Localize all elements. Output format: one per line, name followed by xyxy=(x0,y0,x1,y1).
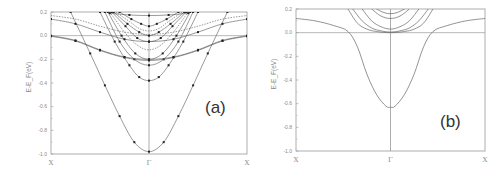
band-marker xyxy=(128,64,130,66)
band-marker xyxy=(119,11,121,13)
band-marker xyxy=(197,11,199,13)
band-marker xyxy=(156,23,158,25)
band-marker xyxy=(99,31,101,33)
band-marker xyxy=(197,49,199,51)
x-tick-label: X xyxy=(483,156,488,164)
band-marker xyxy=(148,25,150,27)
band-marker xyxy=(133,141,135,143)
band-structure-figure: 0.20.0-0.2-0.4-0.6-0.8-1.0XΓXE-E_F(eV) 0… xyxy=(0,0,503,178)
band-marker xyxy=(138,76,140,78)
y-tick-label: -1.0 xyxy=(283,148,292,154)
band-marker xyxy=(75,23,77,25)
band-marker xyxy=(168,14,170,16)
band-marker xyxy=(119,115,121,117)
band-marker xyxy=(124,57,126,59)
band-marker xyxy=(192,84,194,86)
band-marker xyxy=(89,52,91,54)
band-marker xyxy=(99,11,101,13)
band-marker xyxy=(189,11,191,13)
band-marker xyxy=(148,60,150,62)
y-tick-label: 0.2 xyxy=(285,6,292,12)
band-marker xyxy=(104,11,106,13)
band-marker xyxy=(130,18,132,20)
band-marker xyxy=(124,25,126,27)
band-marker xyxy=(158,76,160,78)
band-marker xyxy=(177,41,179,43)
band-marker xyxy=(173,57,175,59)
band-marker xyxy=(126,23,128,25)
band-marker xyxy=(166,18,168,20)
band-marker xyxy=(177,115,179,117)
y-tick-label: -0.6 xyxy=(283,100,292,106)
band-marker xyxy=(175,35,177,37)
band-marker xyxy=(111,11,113,13)
y-tick-label: -0.8 xyxy=(283,124,292,130)
band-marker xyxy=(160,37,162,39)
band-marker xyxy=(185,11,187,13)
band-marker xyxy=(138,31,140,33)
y-tick-label: -0.2 xyxy=(38,56,47,62)
x-tick-label: Γ xyxy=(388,156,393,164)
band-marker xyxy=(75,40,77,42)
panel-b-label: (b) xyxy=(440,112,461,131)
y-tick-label: -0.8 xyxy=(38,127,47,133)
band-marker xyxy=(222,23,224,25)
x-tick-label: X xyxy=(49,159,54,167)
y-axis-title: E-E_F(eV) xyxy=(270,59,278,90)
band-marker xyxy=(136,37,138,39)
band-marker xyxy=(168,64,170,66)
y-tick-label: -0.6 xyxy=(38,103,47,109)
x-tick-label: X xyxy=(245,159,250,167)
x-tick-label: X xyxy=(294,156,299,164)
y-tick-label: 0.0 xyxy=(285,29,292,35)
band-marker xyxy=(114,41,116,43)
band-marker xyxy=(148,80,150,82)
panel-b-band-structure: 0.20.0-0.2-0.4-0.6-0.8-1.0XΓXE-E_F(eV) xyxy=(270,6,488,164)
band-marker xyxy=(99,49,101,51)
band-marker xyxy=(187,12,189,14)
panel-a-band-structure: 0.20.0-0.2-0.4-0.6-0.8-1.0XΓXE-E_F(eV) xyxy=(25,9,250,167)
band-marker xyxy=(148,35,150,37)
y-tick-label: -0.2 xyxy=(283,53,292,59)
band-marker xyxy=(177,11,179,13)
band-marker xyxy=(148,64,150,66)
band-marker xyxy=(162,52,164,54)
y-tick-label: -0.4 xyxy=(283,77,292,83)
band-marker xyxy=(192,11,194,13)
band-marker xyxy=(134,52,136,54)
band-marker xyxy=(107,11,109,13)
band-marker xyxy=(226,11,228,13)
band-marker xyxy=(173,38,175,40)
y-tick-label: -0.4 xyxy=(38,80,47,86)
band-marker xyxy=(50,18,52,20)
band-marker xyxy=(148,41,150,43)
band-marker xyxy=(182,41,184,43)
band-marker xyxy=(50,35,52,37)
band-marker xyxy=(121,35,123,37)
y-tick-label: 0.0 xyxy=(40,32,47,38)
band-marker xyxy=(128,14,130,16)
band-marker xyxy=(148,15,150,17)
band-marker xyxy=(207,52,209,54)
band-marker xyxy=(183,11,185,13)
band-marker xyxy=(163,141,165,143)
band-marker xyxy=(158,31,160,33)
band-marker xyxy=(113,11,115,13)
band-marker xyxy=(170,23,172,25)
band-marker xyxy=(246,35,248,37)
band-marker xyxy=(148,151,150,153)
band-marker xyxy=(246,18,248,20)
y-tick-label: -1.0 xyxy=(38,151,47,157)
band-marker xyxy=(119,41,121,43)
band-marker xyxy=(197,31,199,33)
x-tick-label: Γ xyxy=(147,159,152,167)
band-marker xyxy=(109,12,111,14)
band-marker xyxy=(124,38,126,40)
band-marker xyxy=(70,11,72,13)
y-tick-label: 0.2 xyxy=(40,9,47,15)
panel-a-label: (a) xyxy=(205,98,226,117)
band-marker xyxy=(140,23,142,25)
band-marker xyxy=(104,84,106,86)
band-marker xyxy=(172,25,174,27)
band-marker xyxy=(222,40,224,42)
